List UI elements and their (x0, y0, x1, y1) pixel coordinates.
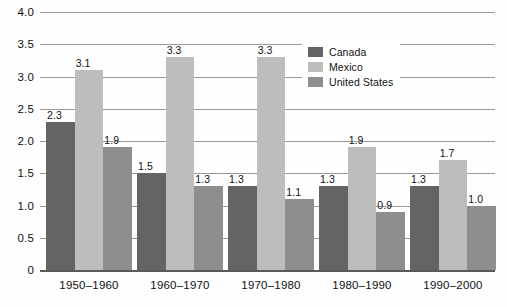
bar-chart: 00.51.01.52.02.53.03.54.0 2.33.11.91.53.… (0, 0, 507, 307)
bar-value-label: 1.3 (195, 173, 210, 185)
bar-united-states-2 (285, 199, 314, 270)
bar-value-label: 1.3 (411, 173, 426, 185)
bar-united-states-0 (103, 147, 132, 270)
legend-item-mexico: Mexico (308, 60, 393, 73)
bar-value-label: 1.9 (104, 134, 119, 146)
bar-value-label: 3.3 (258, 44, 273, 56)
x-axis-label-4: 1990–2000 (400, 279, 506, 291)
bar-mexico-3 (348, 147, 377, 270)
bar-value-label: 1.0 (468, 193, 483, 205)
bar-canada-2 (228, 186, 257, 270)
bar-value-label: 1.3 (229, 173, 244, 185)
bar-mexico-2 (257, 57, 286, 270)
legend-item-united-states: United States (308, 75, 393, 88)
bar-value-label: 3.3 (167, 44, 182, 56)
legend-label: United States (329, 77, 393, 87)
bar-canada-4 (410, 186, 439, 270)
bar-value-label: 1.3 (320, 173, 335, 185)
bar-mexico-0 (75, 70, 104, 270)
bar-value-label: 1.1 (286, 186, 301, 198)
bar-value-label: 1.7 (440, 147, 455, 159)
bar-canada-0 (46, 122, 75, 270)
bar-united-states-3 (376, 212, 405, 270)
legend-swatch-icon (308, 62, 323, 72)
bar-value-label: 0.9 (377, 199, 392, 211)
legend-label: Mexico (329, 62, 363, 72)
legend-swatch-icon (308, 77, 323, 87)
bar-mexico-1 (166, 57, 195, 270)
bar-united-states-4 (467, 206, 496, 271)
bar-value-label: 1.5 (138, 160, 153, 172)
legend-item-canada: Canada (308, 45, 393, 58)
legend-swatch-icon (308, 47, 323, 57)
bar-value-label: 3.1 (76, 57, 91, 69)
bars-layer: 2.33.11.91.53.31.31.33.31.11.31.90.91.31… (0, 0, 507, 307)
bar-united-states-1 (194, 186, 223, 270)
bar-value-label: 2.3 (47, 109, 62, 121)
bar-canada-3 (319, 186, 348, 270)
bar-mexico-4 (439, 160, 468, 270)
bar-canada-1 (137, 173, 166, 270)
legend-label: Canada (329, 47, 366, 57)
chart-legend: CanadaMexicoUnited States (302, 40, 400, 93)
bar-value-label: 1.9 (349, 134, 364, 146)
